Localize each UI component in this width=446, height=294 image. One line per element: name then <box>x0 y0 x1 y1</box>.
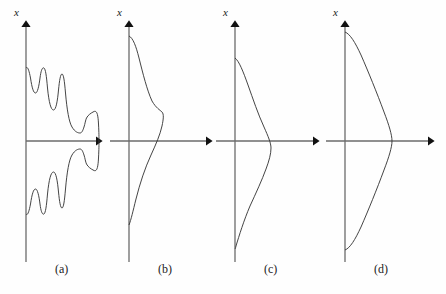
panel-c-axis-label: x <box>223 6 228 18</box>
panel-caption-a: (a) <box>55 262 68 277</box>
panel-caption-d: (d) <box>374 262 388 277</box>
wavefunction-figure <box>0 0 446 294</box>
panel-caption-b: (b) <box>158 262 172 277</box>
figure-background <box>0 0 446 294</box>
panel-a-axis-label: x <box>14 6 19 18</box>
panel-d-axis-label: x <box>333 6 338 18</box>
panel-caption-c: (c) <box>264 262 277 277</box>
panel-b-axis-label: x <box>117 6 122 18</box>
